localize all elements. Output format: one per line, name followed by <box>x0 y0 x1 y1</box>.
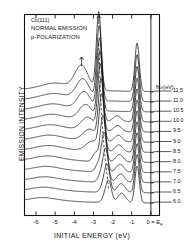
plot-canvas <box>0 0 192 249</box>
legend-item-photon-energy: 11.0 <box>173 97 183 103</box>
x-tick-label: -1 <box>124 219 140 225</box>
legend-item-photon-energy: 11.5 <box>173 87 183 93</box>
spectra-curves <box>25 12 153 204</box>
peak-arrow-icon <box>80 57 84 66</box>
fermi-level-text: 0 = E <box>146 219 160 225</box>
legend-item-photon-energy: 10.0 <box>173 117 184 123</box>
legend-item-photon-energy: 6.0 <box>173 198 181 204</box>
x-tick-label: -2 <box>105 219 121 225</box>
x-tick-label: -6 <box>28 219 44 225</box>
legend-item-photon-energy: 7.5 <box>173 168 181 174</box>
x-tick-label: -3 <box>85 219 101 225</box>
legend-item-photon-energy: 8.5 <box>173 148 181 154</box>
x-tick-label: -4 <box>66 219 82 225</box>
legend-item-photon-energy: 9.5 <box>173 127 181 133</box>
y-axis-label: EMISSION INTENSITY <box>18 59 25 189</box>
sample-label: Cu(111) <box>31 17 49 23</box>
legend-item-photon-energy: 9.0 <box>173 138 181 144</box>
fermi-level-label: 0 = EF <box>146 219 163 227</box>
legend-item-photon-energy: 6.5 <box>173 188 181 194</box>
figure-photoemission-spectra: Cu(111) NORMAL EMISSION p-POLARIZATION ħ… <box>0 0 192 249</box>
polarization-label: p-POLARIZATION <box>31 34 80 40</box>
x-axis-label: INITIAL ENERGY (eV) <box>24 232 160 239</box>
fermi-level-subscript: F <box>160 222 163 227</box>
legend-item-photon-energy: 7.0 <box>173 178 181 184</box>
legend-item-photon-energy: 10.5 <box>173 107 184 113</box>
legend-leader-lines <box>151 91 172 203</box>
geometry-label: NORMAL EMISSION <box>31 25 87 31</box>
legend-item-photon-energy: 8.0 <box>173 158 181 164</box>
axis-ticks <box>36 15 151 216</box>
x-tick-label: -5 <box>47 219 63 225</box>
